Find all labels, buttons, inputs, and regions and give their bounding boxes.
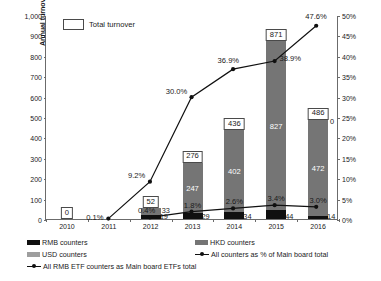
x-axis-tick-label: 2010	[59, 223, 75, 230]
total-turnover-swatch-icon	[63, 19, 84, 30]
x-axis-tick-mark	[213, 219, 214, 222]
y-axis-left-tick-label: 500	[2, 115, 42, 122]
chart-legend: RMB counters HKD counters USD counters A…	[27, 236, 367, 272]
chart-container: Annual turnover (HKD bil) 1,000900800700…	[0, 0, 381, 281]
y-axis-right-tick-mark	[337, 179, 340, 180]
rmb-swatch-icon	[27, 240, 40, 245]
line-marker-icon	[195, 251, 209, 258]
y-axis-left-tick-label: 700	[2, 74, 42, 81]
y-axis-left-tick-label: 100	[2, 196, 42, 203]
y-axis-right-tick-label: 15%	[342, 155, 372, 162]
x-axis-tick-label: 2012	[143, 223, 159, 230]
x-axis-tick-label: 2015	[268, 223, 284, 230]
bar-label-hkd-2012: 33	[162, 206, 170, 215]
total-turnover-label-2014: 436	[224, 118, 245, 130]
y-axis-left-tick-label: 200	[2, 176, 42, 183]
all-rmb-etf-pct-label-2011: 0.1%	[86, 213, 103, 222]
usd-swatch-icon	[27, 252, 40, 257]
bar-label-rmb-2016: 14	[327, 212, 335, 221]
x-axis-tick-mark	[339, 219, 340, 222]
y-axis-left-tick-label: 900	[2, 33, 42, 40]
y-axis-left-tick-label: 600	[2, 94, 42, 101]
plot-area: Annual turnover (HKD bil) 1,000900800700…	[45, 16, 338, 220]
all-counters-pct-point[interactable]	[148, 215, 152, 219]
y-axis-right-tick-mark	[337, 77, 340, 78]
all-counters-pct-point[interactable]	[231, 206, 235, 210]
y-axis-right-tick-label: 35%	[342, 74, 372, 81]
all-rmb-etf-pct-label-2015: 38.9%	[279, 54, 301, 63]
legend-label-usd: USD counters	[42, 250, 87, 259]
y-axis-right-tick-mark	[337, 57, 340, 58]
y-axis-right-tick-label: 50%	[342, 13, 372, 20]
y-axis-right-tick-mark	[337, 98, 340, 99]
all-counters-pct-label-2016: 3.0%	[309, 196, 326, 205]
bar-label-rmb-2013: 29	[202, 212, 210, 221]
x-axis-tick-mark	[297, 219, 298, 222]
bar-label-rmb-2015: 44	[285, 212, 293, 221]
hkd-swatch-icon	[195, 240, 208, 245]
all-counters-pct-label-2015: 3.4%	[268, 194, 285, 203]
all-counters-pct-point[interactable]	[189, 210, 193, 214]
y-axis-right-tick-label: 30%	[342, 94, 372, 101]
all-rmb-etf-pct-point[interactable]	[231, 67, 235, 71]
x-axis-tick-mark	[172, 219, 173, 222]
all-rmb-etf-pct-label-2012: 9.2%	[128, 171, 145, 180]
legend-item-all-rmb-etf-pct[interactable]: All RMB ETF counters as Main board ETFs …	[27, 262, 367, 271]
y-axis-right-tick-mark	[337, 118, 340, 119]
legend-total-turnover: Total turnover	[63, 19, 135, 30]
bar-label-rmb-2014: 34	[243, 212, 251, 221]
x-axis-tick-label: 2013	[185, 223, 201, 230]
y-axis-right-tick-mark	[337, 16, 340, 17]
x-axis-tick-mark	[255, 219, 256, 222]
x-axis-tick-mark	[130, 219, 131, 222]
all-rmb-etf-pct-point[interactable]	[273, 59, 277, 63]
y-axis-right-tick-label: 25%	[342, 115, 372, 122]
y-axis-right-tick-mark	[337, 200, 340, 201]
y-axis-left-tick-label: 800	[2, 53, 42, 60]
x-axis-tick-mark	[46, 219, 47, 222]
all-rmb-etf-pct-point[interactable]	[189, 95, 193, 99]
y-axis-right-tick-mark	[337, 36, 340, 37]
all-rmb-etf-pct-label-2014: 36.9%	[218, 56, 240, 65]
all-rmb-etf-pct-label-2013: 30.0%	[166, 87, 188, 96]
all-counters-pct-label-2013: 1.8%	[184, 201, 201, 210]
total-turnover-label-2012: 52	[142, 196, 158, 208]
y-axis-right-tick-label: 45%	[342, 33, 372, 40]
total-turnover-label-2010: 0	[61, 207, 73, 219]
y-axis-left-tick-label: 1,000	[2, 13, 42, 20]
y-axis-left-tick-label: 0	[2, 217, 42, 224]
total-turnover-label-2013: 276	[182, 151, 203, 163]
total-turnover-label: Total turnover	[89, 20, 135, 29]
line-marker-icon-2	[27, 263, 41, 270]
x-axis-tick-label: 2011	[101, 223, 116, 230]
legend-label-all-counters-pct: All counters as % of Main board total	[211, 250, 328, 259]
x-axis-tick-label: 2016	[310, 223, 326, 230]
legend-item-usd-counters[interactable]: USD counters	[27, 250, 195, 259]
y-axis-right-tick-label: 10%	[342, 176, 372, 183]
x-axis-tick-label: 2014	[227, 223, 243, 230]
all-counters-pct-point[interactable]	[273, 203, 277, 207]
all-rmb-etf-pct-point[interactable]	[106, 217, 110, 221]
all-counters-pct-point[interactable]	[314, 205, 318, 209]
all-rmb-etf-pct-point[interactable]	[148, 180, 152, 184]
legend-item-all-counters-pct[interactable]: All counters as % of Main board total	[195, 250, 367, 259]
y-axis-right-tick-label: 5%	[342, 196, 372, 203]
bar-label-usd-2016: 0	[330, 117, 334, 126]
all-rmb-etf-pct-label-2016: 47.6%	[305, 12, 327, 21]
all-rmb-etf-pct-point[interactable]	[314, 24, 318, 28]
line-series-group	[46, 16, 337, 219]
all-counters-pct-label-2014: 2.6%	[226, 197, 243, 206]
y-axis-right-tick-mark	[337, 159, 340, 160]
total-turnover-label-2016: 486	[308, 108, 329, 120]
legend-item-hkd-counters[interactable]: HKD counters	[195, 238, 367, 247]
legend-label-all-rmb-etf-pct: All RMB ETF counters as Main board ETFs …	[43, 262, 196, 271]
y-axis-right-tick-mark	[337, 138, 340, 139]
legend-item-rmb-counters[interactable]: RMB counters	[27, 238, 195, 247]
legend-label-rmb: RMB counters	[42, 238, 88, 247]
y-axis-right-tick-label: 20%	[342, 135, 372, 142]
y-axis-left-tick-label: 300	[2, 155, 42, 162]
y-axis-right-tick-label: 0%	[342, 217, 372, 224]
legend-label-hkd: HKD counters	[210, 238, 255, 247]
y-axis-right-tick-label: 40%	[342, 53, 372, 60]
y-axis-left-tick-label: 400	[2, 135, 42, 142]
